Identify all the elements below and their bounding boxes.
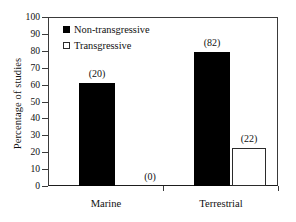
x-axis-label-terrestrial: Terrestrial xyxy=(176,198,266,209)
legend-label-non-transgressive: Non-transgressive xyxy=(74,24,150,35)
legend-item-transgressive[interactable]: Transgressive xyxy=(63,38,193,53)
bar-value-terrestrial-transgressive: (22) xyxy=(221,133,277,144)
y-tick-label-90: 90 xyxy=(14,29,40,39)
filled-square-icon xyxy=(63,26,70,33)
y-tick-label-60: 60 xyxy=(14,80,40,90)
y-tick-label-0: 0 xyxy=(14,181,40,191)
y-tick-label-100: 100 xyxy=(14,12,40,22)
bar-terrestrial-non-transgressive[interactable] xyxy=(194,52,230,186)
y-tick-label-10: 10 xyxy=(14,164,40,174)
chart-legend: Non-transgressive Transgressive xyxy=(63,22,193,54)
bar-marine-non-transgressive[interactable] xyxy=(79,83,115,186)
x-axis-label-marine: Marine xyxy=(61,198,151,209)
y-tick-label-50: 50 xyxy=(14,97,40,107)
y-tick-label-20: 20 xyxy=(14,147,40,157)
y-tick-mark-0 xyxy=(42,186,48,187)
x-tick-mark-middle xyxy=(163,186,164,191)
open-square-icon xyxy=(63,42,70,49)
bar-terrestrial-transgressive[interactable] xyxy=(232,148,266,186)
bar-chart-figure: Percentage of studies 100 90 80 70 60 50… xyxy=(0,0,296,222)
y-tick-label-30: 30 xyxy=(14,130,40,140)
bar-value-marine-transgressive: (0) xyxy=(122,171,178,182)
legend-item-non-transgressive[interactable]: Non-transgressive xyxy=(63,22,193,37)
y-tick-label-80: 80 xyxy=(14,46,40,56)
bar-value-marine-non-transgressive: (20) xyxy=(69,68,125,79)
y-tick-label-70: 70 xyxy=(14,63,40,73)
legend-label-transgressive: Transgressive xyxy=(74,40,131,51)
y-tick-label-40: 40 xyxy=(14,113,40,123)
x-tick-mark-right xyxy=(278,186,279,191)
